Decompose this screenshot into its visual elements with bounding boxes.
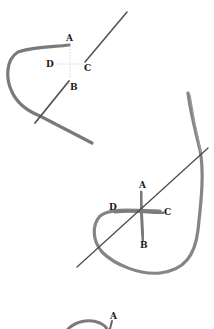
label-d-diagram-2: D xyxy=(109,203,117,212)
label-b-diagram-1: B xyxy=(70,83,78,92)
needle-tip xyxy=(85,12,127,62)
label-d-diagram-1: D xyxy=(46,60,54,69)
diagram-1 xyxy=(8,12,127,143)
label-a-diagram-1: A xyxy=(66,34,73,43)
label-a-diagram-3: A xyxy=(110,312,117,321)
thread xyxy=(94,93,202,273)
label-a-diagram-2: A xyxy=(139,181,146,190)
thread-strand xyxy=(190,95,201,152)
stitch-vertical xyxy=(141,192,143,240)
needle-eye-end xyxy=(35,81,69,123)
label-b-diagram-2: B xyxy=(140,241,148,250)
thread xyxy=(68,321,107,329)
needle xyxy=(110,321,112,329)
label-c-diagram-1: C xyxy=(84,64,91,73)
diagram-3 xyxy=(68,321,112,329)
label-c-diagram-2: C xyxy=(164,208,171,217)
embroidery-stitch-diagram xyxy=(0,0,214,329)
